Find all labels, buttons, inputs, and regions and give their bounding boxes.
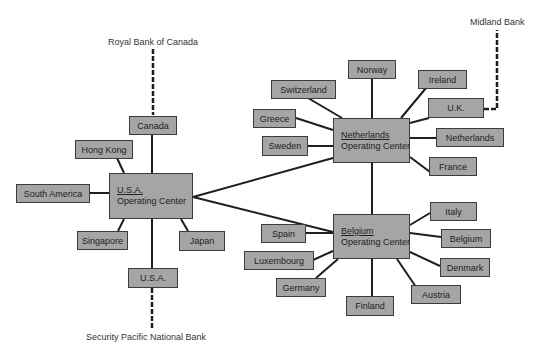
- hub-netherlands-operating-center: Netherlands Operating Center: [333, 118, 410, 163]
- hub-title: Netherlands: [341, 130, 410, 141]
- network-diagram: Royal Bank of Canada Midland Bank Securi…: [0, 0, 545, 355]
- node-denmark: Denmark: [440, 258, 490, 277]
- bank-royal-bank-of-canada: Royal Bank of Canada: [108, 37, 198, 47]
- node-singapore: Singapore: [77, 231, 128, 250]
- node-netherlands: Netherlands: [436, 128, 504, 147]
- hub-subtitle: Operating Center: [341, 141, 410, 152]
- node-hong-kong: Hong Kong: [75, 140, 133, 159]
- node-spain: Spain: [261, 224, 306, 243]
- hub-subtitle: Operating Center: [117, 196, 186, 207]
- node-belgium: Belgium: [441, 229, 491, 248]
- hub-title: U.S.A.: [117, 185, 186, 196]
- node-italy: Italy: [430, 202, 477, 221]
- node-japan: Japan: [179, 231, 225, 251]
- node-austria: Austria: [411, 285, 461, 304]
- bank-midland: Midland Bank: [470, 17, 525, 27]
- node-ireland: Ireland: [418, 70, 467, 89]
- node-luxembourg: Luxembourg: [244, 251, 314, 270]
- hub-subtitle: Operating Center: [341, 237, 410, 248]
- node-uk: U.K.: [428, 98, 484, 118]
- bank-security-pacific: Security Pacific National Bank: [86, 332, 206, 342]
- node-finland: Finland: [346, 296, 394, 316]
- node-canada: Canada: [129, 116, 177, 135]
- node-switzerland: Switzerland: [271, 80, 336, 99]
- node-germany: Germany: [276, 278, 326, 297]
- hub-usa-operating-center: U.S.A. Operating Center: [109, 173, 193, 219]
- node-france: France: [429, 157, 477, 176]
- hub-belgium-operating-center: Belgium Operating Center: [333, 214, 410, 259]
- node-sweden: Sweden: [262, 136, 308, 156]
- connection-lines: [0, 0, 545, 355]
- node-norway: Norway: [348, 60, 396, 79]
- node-greece: Greece: [253, 109, 296, 128]
- hub-title: Belgium: [341, 226, 410, 237]
- node-usa: U.S.A.: [128, 268, 178, 288]
- node-south-america: South America: [16, 184, 90, 203]
